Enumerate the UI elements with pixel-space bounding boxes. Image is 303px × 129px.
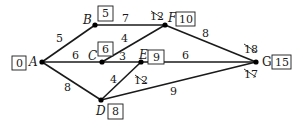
weight-d-g: 9: [170, 85, 177, 98]
value-d: 8: [112, 105, 119, 118]
node-label-e: E: [138, 48, 148, 62]
weight-a-b: 5: [56, 32, 63, 45]
node-label-d: D: [95, 104, 106, 118]
node-label-c: C: [88, 49, 97, 63]
weight-b-f: 7: [122, 12, 129, 25]
edge-f-g: [165, 25, 256, 62]
node-label-f: F: [167, 11, 177, 25]
edge-a-d: [42, 62, 101, 100]
edge-d-g: [101, 62, 256, 100]
node-label-b: B: [82, 13, 92, 27]
crossed-out-values: 12 12 18 17: [134, 10, 258, 87]
node-c: [99, 59, 104, 64]
value-e: 9: [153, 51, 160, 64]
value-b: 5: [102, 7, 109, 20]
weight-c-f: 4: [121, 32, 128, 45]
weight-e-g: 6: [182, 49, 189, 62]
weight-c-e: 3: [119, 50, 126, 63]
weight-a-d: 8: [64, 81, 71, 94]
weight-a-c: 6: [72, 49, 79, 62]
weight-d-e: 4: [110, 73, 117, 86]
node-g: [253, 59, 258, 64]
node-a: [39, 59, 44, 64]
weight-f-g: 8: [202, 27, 209, 40]
network-diagram: A B C E F D G 0 5 6 9 10 8 15 5 6 8 7 4 …: [0, 0, 303, 129]
value-f: 10: [179, 13, 193, 26]
value-c: 6: [102, 43, 109, 56]
value-g: 15: [275, 56, 289, 69]
node-d: [98, 97, 103, 102]
node-labels: A B C E F D G: [28, 11, 272, 118]
node-b: [92, 22, 97, 27]
value-a: 0: [16, 57, 23, 70]
node-label-a: A: [28, 55, 38, 69]
node-f: [162, 22, 167, 27]
node-label-g: G: [262, 55, 272, 69]
